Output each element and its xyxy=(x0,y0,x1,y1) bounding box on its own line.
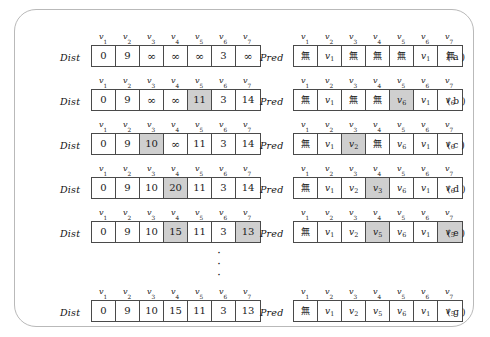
column-header-v3: v3 xyxy=(139,76,163,87)
dist-cell-v4[interactable]: 20 xyxy=(164,178,188,198)
column-header-subscript: 6 xyxy=(425,215,429,221)
pred-cell-v2[interactable]: v1 xyxy=(318,178,342,198)
pred-cell-v1[interactable]: 無 xyxy=(294,46,318,66)
pred-cell-v4[interactable]: 無 xyxy=(366,46,390,66)
pred-cell-v1[interactable]: 無 xyxy=(294,301,318,321)
distance-value: 10 xyxy=(145,306,158,316)
pred-cell-v6[interactable]: v1 xyxy=(414,222,438,242)
dist-cell-v2[interactable]: 9 xyxy=(116,134,140,154)
pred-cell-v4[interactable]: v3 xyxy=(366,178,390,198)
pred-cell-v3[interactable]: 無 xyxy=(342,90,366,110)
vertex-subscript: 2 xyxy=(354,187,358,195)
dist-cell-v2[interactable]: 9 xyxy=(116,178,140,198)
vertex-value: v1 xyxy=(421,184,430,193)
dist-cell-v4[interactable]: ∞ xyxy=(164,46,188,66)
dist-cell-v3[interactable]: 10 xyxy=(140,134,164,154)
pred-cell-v2[interactable]: v1 xyxy=(318,222,342,242)
dist-cell-v1[interactable]: 0 xyxy=(92,301,116,321)
pred-cell-v4[interactable]: v5 xyxy=(366,301,390,321)
pred-cell-v3[interactable]: v2 xyxy=(342,134,366,154)
distance-value: 0 xyxy=(100,51,106,61)
pred-cell-v5[interactable]: v6 xyxy=(390,222,414,242)
column-header-subscript: 5 xyxy=(401,294,405,300)
pred-cell-v1[interactable]: 無 xyxy=(294,134,318,154)
pred-cell-v4[interactable]: 無 xyxy=(366,90,390,110)
dist-cell-v5[interactable]: 11 xyxy=(188,178,212,198)
dist-cell-v5[interactable]: 11 xyxy=(188,90,212,110)
dist-cell-v6[interactable]: 3 xyxy=(212,46,236,66)
pred-cell-v6[interactable]: v1 xyxy=(414,178,438,198)
pred-cell-v6[interactable]: v1 xyxy=(414,90,438,110)
no-predecessor-symbol: 無 xyxy=(301,52,310,61)
dist-cell-v7[interactable]: 13 xyxy=(236,222,260,242)
dist-cell-v6[interactable]: 3 xyxy=(212,301,236,321)
pred-cell-v5[interactable]: v6 xyxy=(390,90,414,110)
pred-cell-v5[interactable]: v6 xyxy=(390,178,414,198)
dist-cell-v1[interactable]: 0 xyxy=(92,222,116,242)
pred-cell-v6[interactable]: v1 xyxy=(414,301,438,321)
dist-cell-v2[interactable]: 9 xyxy=(116,46,140,66)
dist-cell-v5[interactable]: 11 xyxy=(188,222,212,242)
dist-cell-v2[interactable]: 9 xyxy=(116,301,140,321)
vertex-subscript: 1 xyxy=(426,55,430,63)
dist-cell-v1[interactable]: 0 xyxy=(92,134,116,154)
dist-cell-v3[interactable]: ∞ xyxy=(140,46,164,66)
column-header-v1: v1 xyxy=(91,164,115,175)
dist-cell-v4[interactable]: 15 xyxy=(164,301,188,321)
pred-cell-v1[interactable]: 無 xyxy=(294,178,318,198)
dist-cell-v6[interactable]: 3 xyxy=(212,178,236,198)
dist-cell-v3[interactable]: 10 xyxy=(140,301,164,321)
pred-cell-v1[interactable]: 無 xyxy=(294,90,318,110)
pred-cell-v4[interactable]: v5 xyxy=(366,222,390,242)
pred-cell-v5[interactable]: v6 xyxy=(390,301,414,321)
column-header-subscript: 6 xyxy=(223,83,227,89)
pred-cell-v1[interactable]: 無 xyxy=(294,222,318,242)
dist-cell-v7[interactable]: ∞ xyxy=(236,46,260,66)
dist-cell-v6[interactable]: 3 xyxy=(212,134,236,154)
pred-cell-v2[interactable]: v1 xyxy=(318,46,342,66)
column-header-row: v1v2v3v4v5v6v7 xyxy=(91,120,259,131)
pred-cell-v3[interactable]: v2 xyxy=(342,301,366,321)
distance-value: 10 xyxy=(145,227,158,237)
pred-cell-v3[interactable]: 無 xyxy=(342,46,366,66)
column-header-subscript: 3 xyxy=(151,127,155,133)
pred-cell-v6[interactable]: v1 xyxy=(414,46,438,66)
dist-cell-v7[interactable]: 14 xyxy=(236,90,260,110)
dist-cell-v7[interactable]: 14 xyxy=(236,178,260,198)
pred-cell-v6[interactable]: v1 xyxy=(414,134,438,154)
pred-cell-v5[interactable]: v6 xyxy=(390,134,414,154)
column-header-v4: v4 xyxy=(365,287,389,298)
dist-cell-v6[interactable]: 3 xyxy=(212,90,236,110)
distance-value: 3 xyxy=(220,183,226,193)
dist-cell-v1[interactable]: 0 xyxy=(92,46,116,66)
dist-cell-v5[interactable]: 11 xyxy=(188,134,212,154)
pred-cell-v2[interactable]: v1 xyxy=(318,134,342,154)
column-header-v5: v5 xyxy=(187,208,211,219)
dist-cell-v1[interactable]: 0 xyxy=(92,90,116,110)
dist-cell-v7[interactable]: 14 xyxy=(236,134,260,154)
dist-cell-v3[interactable]: 10 xyxy=(140,222,164,242)
pred-cell-v5[interactable]: 無 xyxy=(390,46,414,66)
pred-cell-v2[interactable]: v1 xyxy=(318,301,342,321)
column-header-subscript: 6 xyxy=(425,83,429,89)
pred-cell-v2[interactable]: v1 xyxy=(318,90,342,110)
pred-cell-v3[interactable]: v2 xyxy=(342,178,366,198)
dist-cell-v5[interactable]: 11 xyxy=(188,301,212,321)
dist-cell-v4[interactable]: ∞ xyxy=(164,134,188,154)
pred-array: 無v1v2v5v6v1v5 xyxy=(293,221,463,243)
pred-cell-v4[interactable]: 無 xyxy=(366,134,390,154)
no-predecessor-symbol: 無 xyxy=(301,96,310,105)
dist-cell-v3[interactable]: 10 xyxy=(140,178,164,198)
dist-cell-v6[interactable]: 3 xyxy=(212,222,236,242)
dist-cell-v3[interactable]: ∞ xyxy=(140,90,164,110)
dist-cell-v2[interactable]: 9 xyxy=(116,222,140,242)
dist-cell-v4[interactable]: 15 xyxy=(164,222,188,242)
dist-cell-v1[interactable]: 0 xyxy=(92,178,116,198)
pred-cell-v3[interactable]: v2 xyxy=(342,222,366,242)
dist-cell-v7[interactable]: 13 xyxy=(236,301,260,321)
dist-cell-v4[interactable]: ∞ xyxy=(164,90,188,110)
column-header-subscript: 2 xyxy=(329,215,333,221)
figure-frame: Distv1v2v3v4v5v6v709∞∞∞3∞Predv1v2v3v4v5v… xyxy=(14,9,474,327)
dist-cell-v2[interactable]: 9 xyxy=(116,90,140,110)
dist-cell-v5[interactable]: ∞ xyxy=(188,46,212,66)
